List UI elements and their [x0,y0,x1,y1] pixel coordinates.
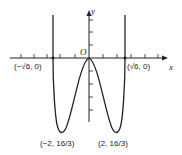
right-root-label: (√6, 0) [127,62,150,71]
y-axis-label: y [90,6,95,16]
origin-label: O [80,47,87,57]
x-axis-label: x [168,62,173,72]
left-root-label: (−√6, 0) [14,62,42,71]
right-root-point [124,57,127,60]
left-root-point [52,57,55,60]
right-min-label: (2, 16/3) [98,139,128,148]
left-min-label: (−2, 16/3) [40,139,75,148]
y-axis [87,10,94,122]
y-axis-ticks [89,20,93,110]
x-axis-arrow-icon [162,56,168,61]
function-graph: y x O (−√6, 0) (√6, 0) (−2, 16/3) (2, 16… [0,0,182,155]
